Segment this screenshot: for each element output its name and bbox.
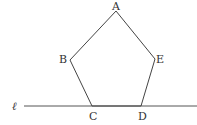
vertex-label-d: D	[138, 110, 147, 123]
pentagon-abcde	[70, 11, 155, 106]
vertex-label-b: B	[59, 53, 67, 66]
line-label: ℓ	[12, 100, 17, 113]
vertex-label-e: E	[156, 53, 164, 66]
vertex-label-a: A	[111, 0, 121, 13]
vertex-label-c: C	[89, 110, 97, 123]
diagram-canvas: ℓ A B C D E	[0, 0, 197, 125]
